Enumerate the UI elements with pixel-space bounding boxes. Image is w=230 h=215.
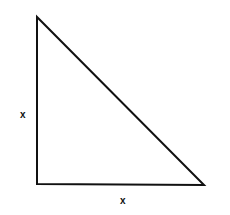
left-leg-label: x [20, 110, 26, 120]
triangle-shape [37, 17, 204, 185]
right-triangle-diagram [0, 0, 230, 215]
bottom-leg-label: x [120, 196, 126, 206]
